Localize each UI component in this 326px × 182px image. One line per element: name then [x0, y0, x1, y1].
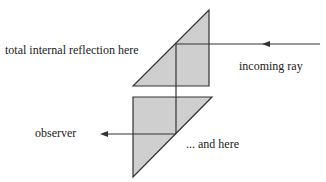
label-observer: observer — [35, 126, 76, 141]
upper-prism — [133, 10, 209, 86]
incoming-arrow-icon — [262, 41, 270, 47]
periscope-diagram: total internal reflection here incoming … — [0, 0, 326, 182]
label-tir-bottom: ... and here — [186, 137, 239, 152]
diagram-canvas — [0, 0, 326, 182]
outgoing-arrow-icon — [100, 131, 108, 137]
label-incoming-ray: incoming ray — [239, 59, 303, 74]
label-tir-top: total internal reflection here — [5, 43, 139, 58]
